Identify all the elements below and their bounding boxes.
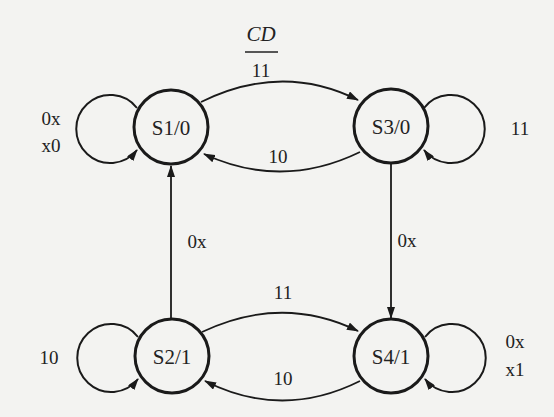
edge-label-s3-s1: 10 [269,146,288,167]
self-loop-s2: 10 [40,324,139,392]
state-label-s3: S3/0 [372,115,411,139]
input-header: CD 11 [245,22,278,81]
edge-s3-to-s4: 0x [391,163,417,318]
state-s3: S3/0 [354,89,428,163]
state-s1: S1/0 [134,90,208,164]
state-label-s4: S4/1 [372,345,411,369]
edge-label-s3-s4: 0x [398,230,418,251]
loop-label-s1-line1: 0x [42,108,62,129]
edge-s4-to-s2: 10 [205,368,360,401]
loop-arrow-s3 [424,95,485,163]
arrow-s1-s3 [201,81,358,102]
self-loop-s1: 0x x0 [42,95,138,163]
input-variables: CD [246,22,275,46]
self-loop-s3: 11 [424,95,529,163]
loop-label-s3: 11 [511,118,529,139]
edge-s3-to-s1: 10 [204,146,360,172]
state-diagram: CD 11 0x x0 11 10 0x x1 10 0x 0x [0,0,554,417]
loop-arrow-s4 [425,324,486,392]
input-example-value: 11 [252,60,270,81]
state-s4: S4/1 [354,319,428,393]
self-loop-s4: 0x x1 [425,324,525,392]
edge-s2-to-s4: 11 [202,282,358,333]
edge-label-s2-s1: 0x [188,231,208,252]
loop-label-s2: 10 [40,347,59,368]
edge-label-s2-s4: 11 [274,282,292,303]
edge-s1-to-s3 [201,81,358,102]
arrow-s2-s4 [202,313,358,332]
edge-label-s4-s2: 10 [274,368,293,389]
loop-arrow-s1 [76,95,137,163]
edge-s2-to-s1: 0x [171,166,207,318]
loop-label-s4-line2: x1 [506,359,525,380]
state-label-s1: S1/0 [152,116,191,140]
loop-label-s1-line2: x0 [42,135,61,156]
loop-arrow-s2 [77,324,138,392]
state-s2: S2/1 [135,319,209,393]
state-label-s2: S2/1 [153,345,192,369]
loop-label-s4-line1: 0x [506,331,526,352]
